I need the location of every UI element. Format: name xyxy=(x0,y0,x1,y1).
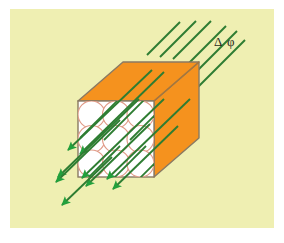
incoming-field-line xyxy=(160,21,196,57)
incoming-field-line xyxy=(147,22,180,55)
charge-circles-grid xyxy=(78,101,154,177)
delta-phi-label: Δ φ xyxy=(214,34,235,50)
diagram-canvas xyxy=(0,0,284,243)
figure-root: Δ φ xyxy=(0,0,284,243)
incoming-field-line xyxy=(173,21,211,59)
charge-circle xyxy=(78,101,105,128)
